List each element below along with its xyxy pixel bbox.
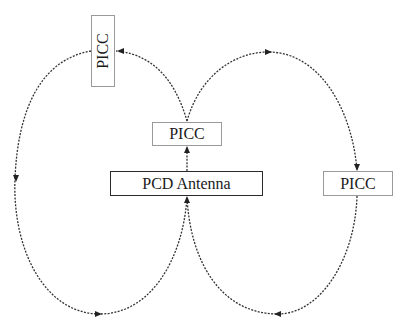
pcd-antenna-label: PCD Antenna <box>142 175 230 193</box>
field-line-upper-right <box>187 52 357 170</box>
arrow-left-side-down-icon <box>13 175 19 182</box>
arrow-into-right-picc-icon <box>354 164 360 171</box>
pcd-antenna-box: PCD Antenna <box>110 171 263 196</box>
arrow-into-middle-picc-icon <box>184 146 190 153</box>
arrow-top-right-icon <box>265 49 272 55</box>
picc-middle-label: PICC <box>169 125 205 143</box>
arrow-bottom-left-right-icon <box>95 311 102 317</box>
picc-middle-box: PICC <box>152 122 222 146</box>
field-line-lower-right <box>187 196 357 314</box>
field-line-upper-left <box>116 51 187 121</box>
picc-top-box: PICC <box>91 15 115 87</box>
field-lines <box>0 0 405 329</box>
picc-right-label: PICC <box>340 175 376 193</box>
arrow-bottom-right-left-icon <box>274 311 281 317</box>
arrow-into-top-picc-icon <box>117 48 124 54</box>
picc-right-box: PICC <box>323 171 393 196</box>
arrow-into-pcd-bottom-icon <box>184 196 190 203</box>
picc-top-label: PICC <box>94 33 112 69</box>
